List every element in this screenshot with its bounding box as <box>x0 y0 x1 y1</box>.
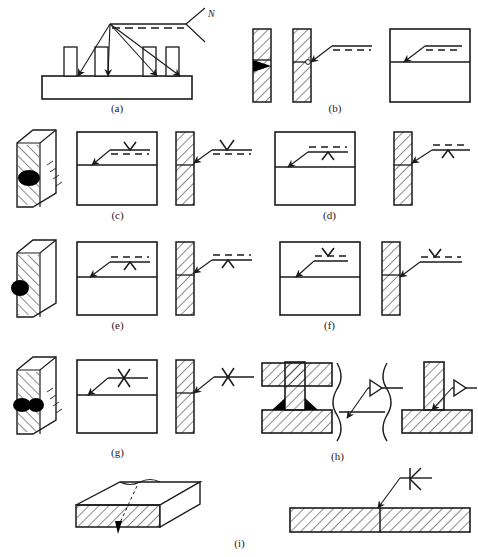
panel-h <box>262 362 477 441</box>
panel-c <box>17 130 252 207</box>
panel-e <box>11 240 252 317</box>
panel-b <box>253 29 470 102</box>
panel-d <box>275 132 470 205</box>
caption-d: (d) <box>272 209 387 221</box>
tail-letter-n: N <box>207 8 216 19</box>
caption-f: (f) <box>272 319 387 331</box>
caption-g: (g) <box>60 446 175 458</box>
caption-e: (e) <box>60 319 175 331</box>
panel-f <box>280 242 462 315</box>
caption-b: (b) <box>240 102 430 114</box>
panel-a: N <box>42 8 216 99</box>
caption-a: (a) <box>0 102 234 114</box>
caption-c: (c) <box>60 209 175 221</box>
caption-i: (i) <box>182 537 297 549</box>
panel-g <box>13 357 254 434</box>
welding-symbol-figure: N <box>0 0 478 557</box>
panel-i <box>76 468 470 534</box>
caption-h: (h) <box>280 450 395 462</box>
